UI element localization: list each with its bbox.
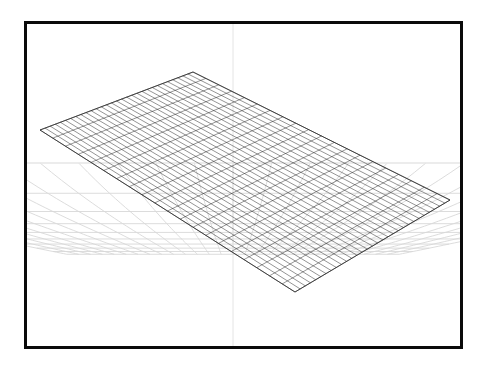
perspective-viewport[interactable] bbox=[24, 21, 463, 349]
floor-grid-line-v bbox=[79, 163, 186, 254]
floor-grid-line-v bbox=[194, 163, 221, 254]
floor-grid-line-v bbox=[27, 163, 91, 254]
ground-plane-grid bbox=[27, 163, 460, 254]
floor-grid-line-v bbox=[316, 163, 460, 254]
mesh-wire-v bbox=[53, 78, 206, 138]
mesh-wire-v bbox=[104, 104, 258, 171]
floor-grid-line-v bbox=[27, 163, 102, 254]
screenshot-root bbox=[0, 0, 484, 367]
mesh-wire-v bbox=[244, 174, 399, 259]
floor-grid-line-v bbox=[245, 163, 272, 254]
mesh-wire-v bbox=[270, 187, 425, 276]
viewport-canvas[interactable] bbox=[27, 24, 460, 346]
subdivided-plane-mesh[interactable] bbox=[40, 72, 450, 292]
floor-grid-line-v bbox=[27, 163, 126, 254]
mesh-wire-v bbox=[91, 98, 244, 163]
